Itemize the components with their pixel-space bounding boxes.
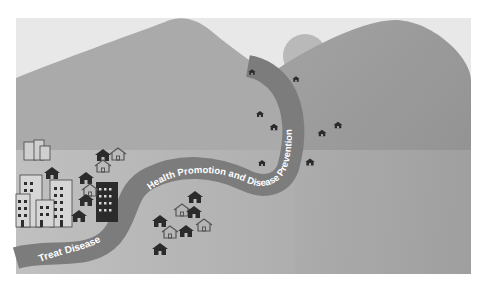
building-dark-tower <box>96 182 118 222</box>
illustration-scene: Treat Disease Health Promotion and Disea… <box>0 0 488 292</box>
